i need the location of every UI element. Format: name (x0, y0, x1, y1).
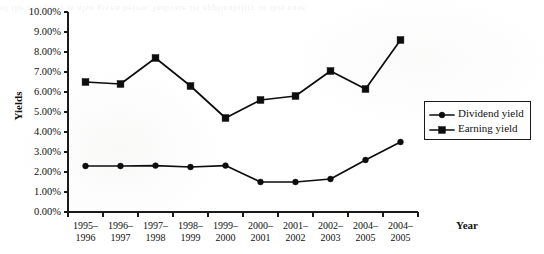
data-point-marker (83, 163, 89, 169)
x-axis-tick-label-line: 2004– (348, 220, 383, 232)
x-axis-tick-label: 2004–2005 (383, 220, 418, 243)
data-point-marker (328, 176, 334, 182)
yields-line-chart: of the company is also given below. Indi… (0, 0, 544, 254)
data-point-marker (187, 83, 194, 90)
y-axis-tick-label: 5.00% (6, 107, 61, 118)
y-axis-tick-label: 4.00% (6, 127, 61, 138)
axes (64, 12, 418, 217)
legend-marker-square (429, 122, 455, 134)
x-axis-tick-label: 2002–2003 (313, 220, 348, 243)
x-axis-tick-label-line: 1998 (138, 232, 173, 244)
x-axis-tick-label-line: 1999 (173, 232, 208, 244)
y-axis-tick-label: 9.00% (6, 27, 61, 38)
data-point-marker (292, 93, 299, 100)
x-axis-tick-label-line: 2000 (208, 232, 243, 244)
data-point-marker (258, 179, 264, 185)
x-axis-tick-label-line: 1997 (103, 232, 138, 244)
x-axis-tick-label-line: 2005 (383, 232, 418, 244)
y-axis-tick-label: 8.00% (6, 47, 61, 58)
data-point-marker (293, 179, 299, 185)
x-axis-tick-label: 1998–1999 (173, 220, 208, 243)
data-point-marker (397, 37, 404, 44)
x-axis-ticks (68, 212, 418, 217)
data-point-marker (82, 79, 89, 86)
data-point-marker (223, 163, 229, 169)
x-axis-tick-label-line: 2004– (383, 220, 418, 232)
x-axis-tick-label-line: 2003 (313, 232, 348, 244)
x-axis-tick-label: 1997–1998 (138, 220, 173, 243)
data-point-marker (153, 163, 159, 169)
x-axis-tick-label-line: 2001– (278, 220, 313, 232)
data-series-group (82, 37, 404, 185)
data-point-marker (118, 163, 124, 169)
data-point-marker (117, 81, 124, 88)
x-axis-tick-label-line: 1999– (208, 220, 243, 232)
chart-legend: Dividend yieldEarning yield (424, 101, 531, 140)
legend-marker-circle (429, 107, 455, 119)
x-axis-tick-label: 2004–2005 (348, 220, 383, 243)
x-axis-tick-label-line: 2005 (348, 232, 383, 244)
data-point-marker (257, 97, 264, 104)
x-axis-tick-label: 1996–1997 (103, 220, 138, 243)
x-axis-tick-label-line: 1995– (68, 220, 103, 232)
x-axis-tick-label-line: 1996 (68, 232, 103, 244)
data-point-marker (362, 86, 369, 93)
data-point-marker (188, 164, 194, 170)
x-axis-tick-label-line: 1997– (138, 220, 173, 232)
x-axis-tick-label-line: 2002 (278, 232, 313, 244)
y-axis-tick-label: 1.00% (6, 187, 61, 198)
legend-item: Earning yield (429, 120, 524, 135)
data-point-marker (398, 139, 404, 145)
axis-lines (68, 12, 418, 212)
y-axis-tick-label: 2.00% (6, 167, 61, 178)
x-axis-tick-label: 1995–1996 (68, 220, 103, 243)
data-point-marker (327, 68, 334, 75)
x-axis-tick-label-line: 2001 (243, 232, 278, 244)
series-line (86, 40, 401, 118)
legend-item-label: Earning yield (458, 122, 518, 134)
series-line (86, 142, 401, 182)
series-earning-yield (82, 37, 404, 122)
y-axis-tick-label: 10.00% (6, 7, 61, 18)
x-axis-tick-label-line: 1996– (103, 220, 138, 232)
x-axis-tick-label-line: 1998– (173, 220, 208, 232)
legend-item-label: Dividend yield (458, 107, 524, 119)
y-axis-tick-label: 3.00% (6, 147, 61, 158)
data-point-marker (363, 157, 369, 163)
legend-item: Dividend yield (429, 105, 524, 120)
data-point-marker (222, 115, 229, 122)
y-axis-tick-label: 0.00% (6, 207, 61, 218)
x-axis-tick-label-line: 2000– (243, 220, 278, 232)
data-point-marker (152, 55, 159, 62)
y-axis-tick-label: 6.00% (6, 87, 61, 98)
x-axis-tick-label-line: 2002– (313, 220, 348, 232)
series-dividend-yield (83, 139, 404, 185)
x-axis-tick-label: 2001–2002 (278, 220, 313, 243)
y-axis-tick-label: 7.00% (6, 67, 61, 78)
x-axis-tick-label: 1999–2000 (208, 220, 243, 243)
x-axis-tick-label: 2000–2001 (243, 220, 278, 243)
